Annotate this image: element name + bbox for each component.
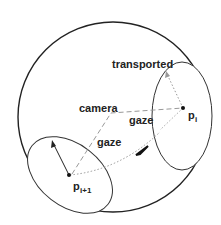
label-transported: transported: [112, 58, 173, 70]
label-p-i1: p: [73, 180, 80, 192]
label-p-i-subscript: i: [195, 115, 197, 124]
tangent-ellipse-right: [152, 62, 212, 170]
label-p-i1-subscript: i+1: [80, 186, 92, 195]
diagram: transported camera gaze gaze p i p i+1: [0, 0, 221, 225]
diagram-canvas: transported camera gaze gaze p i p i+1: [0, 0, 221, 225]
point-p-i1: [67, 173, 71, 177]
label-p-i: p: [188, 109, 195, 121]
label-gaze-upper: gaze: [129, 114, 153, 126]
point-p-i: [181, 106, 185, 110]
label-gaze-lower: gaze: [97, 136, 121, 148]
label-camera: camera: [79, 102, 118, 114]
